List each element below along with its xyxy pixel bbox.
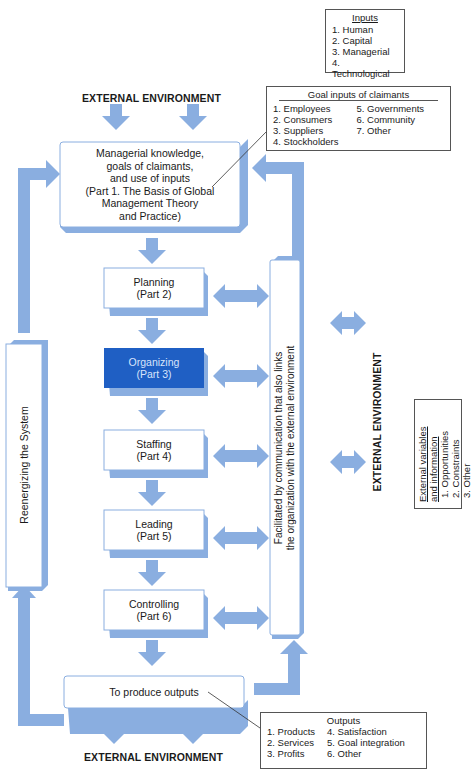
output-item: 3. Profits xyxy=(267,748,315,759)
function-name: Organizing xyxy=(129,356,180,369)
arrow-communication-to-input xyxy=(252,154,304,262)
communication-box: Facilitated by communication that also l… xyxy=(270,298,300,598)
function-name: Controlling xyxy=(129,598,179,611)
external-variables-legend: External variables and information 1. Op… xyxy=(414,399,462,509)
input-box-line: Management Theory xyxy=(102,197,199,210)
arrow-staffing-to-leading xyxy=(138,480,166,506)
output-item: 6. Other xyxy=(327,748,405,759)
arrow-controlling-to-outputs xyxy=(138,640,166,666)
external-variable-item: 3. Other xyxy=(461,406,472,498)
outputs-legend-title: Outputs xyxy=(267,715,420,726)
function-part: (Part 3) xyxy=(136,368,171,381)
arrow-organizing-to-staffing xyxy=(138,398,166,424)
inputs-legend-item: 1. Human xyxy=(332,24,398,35)
arrow-input-to-planning xyxy=(138,238,166,264)
input-box: Managerial knowledge, goals of claimants… xyxy=(60,142,240,227)
input-box-line: Managerial knowledge, xyxy=(96,147,204,160)
inputs-legend: Inputs 1. Human 2. Capital 3. Managerial… xyxy=(325,9,405,73)
input-box-line: and use of inputs xyxy=(110,172,190,185)
external-variables-title: External variables xyxy=(417,406,428,502)
output-item: 1. Products xyxy=(267,726,315,737)
outputs-legend: Outputs 1. Products 2. Services 3. Profi… xyxy=(260,712,427,769)
external-environment-right-label: EXTERNAL ENVIRONMENT xyxy=(371,342,383,502)
claimant-item: 3. Suppliers xyxy=(273,125,338,136)
inputs-legend-item: 4. Technological xyxy=(332,57,398,79)
claimant-item: 6. Community xyxy=(356,114,424,125)
input-box-line: and Practice) xyxy=(119,210,181,223)
external-environment-bottom-label: EXTERNAL ENVIRONMENT xyxy=(84,751,223,763)
function-part: (Part 4) xyxy=(136,450,171,463)
input-box-line: (Part 1. The Basis of Global xyxy=(86,185,215,198)
claimant-item: 4. Stockholders xyxy=(273,136,338,147)
double-arrows-functions xyxy=(213,284,269,630)
reenergizing-box: Reenergizing the System xyxy=(16,365,32,565)
double-arrows-external xyxy=(330,311,366,474)
communication-line: the organization with the external envir… xyxy=(285,346,297,551)
external-variable-item: 1. Opportunities xyxy=(439,406,450,498)
output-item: 4. Satisfaction xyxy=(327,726,405,737)
external-environment-top-label: EXTERNAL ENVIRONMENT xyxy=(82,92,221,104)
leading-box: Leading (Part 5) xyxy=(104,510,204,550)
output-item: 2. Services xyxy=(267,737,315,748)
organizing-box: Organizing (Part 3) xyxy=(104,348,204,388)
controlling-box: Controlling (Part 6) xyxy=(104,590,204,630)
claimant-item: 5. Governments xyxy=(356,103,424,114)
claimant-item: 1. Employees xyxy=(273,103,338,114)
claimants-legend: Goal inputs of claimants 1. Employees 2.… xyxy=(266,86,451,151)
output-box: To produce outputs xyxy=(64,676,244,708)
function-part: (Part 6) xyxy=(136,610,171,623)
inputs-legend-item: 3. Managerial xyxy=(332,46,398,57)
function-name: Leading xyxy=(135,518,172,531)
arrow-planning-to-organizing xyxy=(138,318,166,344)
communication-line: Facilitated by communication that also l… xyxy=(273,352,285,544)
inputs-legend-item: 2. Capital xyxy=(332,35,398,46)
arrow-down-env-left xyxy=(102,104,130,130)
function-name: Planning xyxy=(134,276,175,289)
arrow-leading-to-controlling xyxy=(138,560,166,586)
input-box-line: goals of claimants, xyxy=(107,160,194,173)
function-part: (Part 5) xyxy=(136,530,171,543)
claimant-item: 2. Consumers xyxy=(273,114,338,125)
arrow-down-env-right xyxy=(179,104,207,130)
claimant-item: 7. Other xyxy=(356,125,424,136)
staffing-box: Staffing (Part 4) xyxy=(104,430,204,470)
external-variable-item: 2. Constraints xyxy=(450,406,461,498)
planning-box: Planning (Part 2) xyxy=(104,268,204,308)
arrow-output-to-communication xyxy=(254,640,308,695)
function-part: (Part 2) xyxy=(136,288,171,301)
function-name: Staffing xyxy=(136,438,171,451)
inputs-legend-title: Inputs xyxy=(332,12,398,23)
external-variables-title: and information xyxy=(428,406,439,502)
output-item: 5. Goal integration xyxy=(327,737,405,748)
claimants-legend-title: Goal inputs of claimants xyxy=(279,89,438,101)
